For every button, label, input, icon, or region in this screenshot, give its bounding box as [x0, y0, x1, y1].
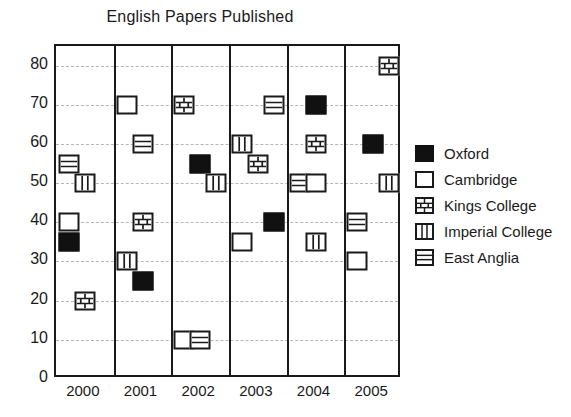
data-point-empty-square-icon	[231, 232, 252, 251]
y-tick-label-30: 30	[4, 250, 48, 268]
data-point-filled-square-icon	[263, 213, 284, 232]
legend-label: Imperial College	[444, 223, 552, 240]
data-point-empty-square-icon	[347, 252, 368, 271]
data-point-brick-pattern-square-icon	[174, 95, 195, 114]
legend-label: East Anglia	[444, 249, 519, 266]
gridline-10	[56, 340, 398, 341]
chart-figure: English Papers Published 010203040506070…	[0, 0, 571, 417]
x-tick-label-2002: 2002	[168, 382, 228, 399]
data-point-horizontal-stripe-square-icon	[132, 134, 153, 153]
y-tick-label-80: 80	[4, 55, 48, 73]
legend-label: Cambridge	[444, 171, 517, 188]
plot-area	[54, 44, 400, 377]
x-tick-label-2003: 2003	[226, 382, 286, 399]
data-point-empty-square-icon	[305, 174, 326, 193]
data-point-vertical-stripe-square-icon	[206, 174, 227, 193]
y-tick-label-70: 70	[4, 94, 48, 112]
data-point-filled-square-icon	[190, 154, 211, 173]
vertical-stripe-square-icon	[415, 223, 434, 240]
data-point-empty-square-icon	[116, 95, 137, 114]
data-point-brick-pattern-square-icon	[132, 213, 153, 232]
y-tick-label-40: 40	[4, 211, 48, 229]
legend-item-imperial-college[interactable]: Imperial College	[415, 218, 565, 244]
y-tick-label-10: 10	[4, 329, 48, 347]
x-tick-label-2001: 2001	[111, 382, 171, 399]
gridline-60	[56, 144, 398, 145]
data-point-empty-square-icon	[58, 213, 79, 232]
legend-label: Oxford	[444, 145, 489, 162]
gridline-20	[56, 301, 398, 302]
y-axis-tick-labels: 01020304050607080	[0, 44, 48, 377]
data-point-filled-square-icon	[132, 272, 153, 291]
filled-square-icon	[415, 145, 434, 162]
brick-pattern-square-icon	[415, 197, 434, 214]
horizontal-stripe-square-icon	[415, 249, 434, 266]
chart-title: English Papers Published	[0, 8, 400, 26]
x-tick-label-2004: 2004	[284, 382, 344, 399]
data-point-filled-square-icon	[58, 232, 79, 251]
data-point-filled-square-icon	[305, 95, 326, 114]
chart-legend: OxfordCambridgeKings CollegeImperial Col…	[415, 140, 565, 270]
data-point-vertical-stripe-square-icon	[74, 174, 95, 193]
column-separator-2004	[287, 46, 289, 375]
gridline-80	[56, 66, 398, 67]
data-point-vertical-stripe-square-icon	[116, 252, 137, 271]
data-point-brick-pattern-square-icon	[379, 56, 400, 75]
data-point-brick-pattern-square-icon	[247, 154, 268, 173]
y-tick-label-0: 0	[4, 368, 48, 386]
legend-item-east-anglia[interactable]: East Anglia	[415, 244, 565, 270]
data-point-horizontal-stripe-square-icon	[263, 95, 284, 114]
column-separator-2003	[229, 46, 231, 375]
data-point-brick-pattern-square-icon	[305, 134, 326, 153]
legend-label: Kings College	[444, 197, 537, 214]
data-point-filled-square-icon	[363, 134, 384, 153]
legend-item-kings-college[interactable]: Kings College	[415, 192, 565, 218]
empty-square-icon	[415, 171, 434, 188]
data-point-brick-pattern-square-icon	[74, 291, 95, 310]
data-point-horizontal-stripe-square-icon	[190, 330, 211, 349]
gridline-70	[56, 105, 398, 106]
y-tick-label-20: 20	[4, 290, 48, 308]
data-point-vertical-stripe-square-icon	[305, 232, 326, 251]
y-tick-label-50: 50	[4, 172, 48, 190]
data-point-horizontal-stripe-square-icon	[58, 154, 79, 173]
y-tick-label-60: 60	[4, 133, 48, 151]
gridline-50	[56, 183, 398, 184]
x-tick-label-2000: 2000	[53, 382, 113, 399]
data-point-horizontal-stripe-square-icon	[347, 213, 368, 232]
legend-item-cambridge[interactable]: Cambridge	[415, 166, 565, 192]
data-point-vertical-stripe-square-icon	[231, 134, 252, 153]
data-point-vertical-stripe-square-icon	[379, 174, 400, 193]
legend-item-oxford[interactable]: Oxford	[415, 140, 565, 166]
column-separator-2005	[344, 46, 346, 375]
x-tick-label-2005: 2005	[341, 382, 401, 399]
